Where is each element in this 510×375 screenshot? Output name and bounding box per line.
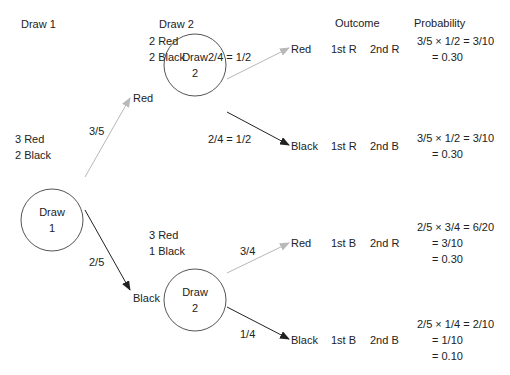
draw1-contents-red: 3 Red xyxy=(15,133,44,146)
draw1-prob-black: 2/5 xyxy=(89,256,104,269)
bottom-red-second: 2nd R xyxy=(370,237,399,250)
top-black-first: 1st R xyxy=(331,140,357,153)
draw2-top-prob-red: 2/4 = 1/2 xyxy=(208,51,251,64)
bottom-black-prob-line3: = 0.10 xyxy=(432,350,463,363)
top-black-prob-line1: 3/5 × 1/2 = 3/10 xyxy=(417,132,494,145)
branch-bottom-black xyxy=(227,307,289,339)
bottom-red-prob-line2: = 3/10 xyxy=(432,237,463,250)
draw2-bottom-contents-red: 3 Red xyxy=(149,229,178,242)
draw2-bottom-node-label: Draw 2 xyxy=(163,284,227,316)
draw2-bottom-prob-black: 1/4 xyxy=(240,328,255,341)
branch-bottom-red xyxy=(227,243,289,273)
top-black-prob-line2: = 0.30 xyxy=(432,148,463,161)
bottom-red-result: Red xyxy=(291,237,311,250)
bottom-red-prob-line3: = 0.30 xyxy=(432,253,463,266)
draw1-node-label: Draw 1 xyxy=(20,204,84,236)
draw1-result-red: Red xyxy=(133,92,153,105)
bottom-red-prob-line1: 2/5 × 3/4 = 6/20 xyxy=(417,221,494,234)
bottom-black-prob-line2: = 1/10 xyxy=(432,334,463,347)
top-red-first: 1st R xyxy=(331,43,357,56)
header-outcome: Outcome xyxy=(335,17,380,30)
header-draw1: Draw 1 xyxy=(21,18,56,31)
bottom-black-second: 2nd B xyxy=(370,334,399,347)
top-red-second: 2nd R xyxy=(370,43,399,56)
draw2-top-contents-red: 2 Red xyxy=(149,35,178,48)
top-red-prob-line2: = 0.30 xyxy=(432,51,463,64)
branch-draw1-black xyxy=(85,210,130,290)
bottom-black-prob-line1: 2/5 × 1/4 = 2/10 xyxy=(417,318,494,331)
header-probability: Probability xyxy=(414,17,465,30)
top-red-result: Red xyxy=(291,43,311,56)
draw2-top-prob-black: 2/4 = 1/2 xyxy=(208,133,251,146)
top-red-prob-line1: 3/5 × 1/2 = 3/10 xyxy=(417,35,494,48)
draw1-contents-black: 2 Black xyxy=(15,149,51,162)
draw1-prob-red: 3/5 xyxy=(89,125,104,138)
header-draw2: Draw 2 xyxy=(159,18,194,31)
top-black-second: 2nd B xyxy=(370,140,399,153)
top-black-result: Black xyxy=(291,140,318,153)
draw2-bottom-prob-red: 3/4 xyxy=(240,245,255,258)
draw2-bottom-contents-black: 1 Black xyxy=(149,245,185,258)
bottom-black-first: 1st B xyxy=(331,334,356,347)
draw1-result-black: Black xyxy=(133,292,160,305)
bottom-red-first: 1st B xyxy=(331,237,356,250)
bottom-black-result: Black xyxy=(291,334,318,347)
